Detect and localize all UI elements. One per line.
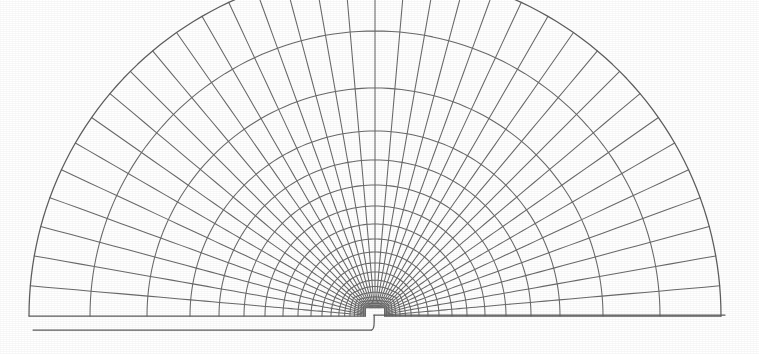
mesh-spoke <box>385 143 675 310</box>
mesh-spoke <box>383 71 619 307</box>
mesh-spoke <box>61 170 365 312</box>
mesh-spoke <box>385 226 710 313</box>
mesh-spoke <box>385 198 701 313</box>
mesh-spoke <box>385 118 659 310</box>
notch-step-edge <box>371 315 374 330</box>
mesh-spoke <box>153 51 368 308</box>
mesh-spoke <box>385 170 689 312</box>
mesh-spokes-group <box>30 0 719 315</box>
mesh-spoke <box>376 0 435 308</box>
mesh-spoke <box>34 256 365 314</box>
mesh-spoke <box>385 256 716 314</box>
mesh-spoke <box>50 198 366 313</box>
mesh-spoke <box>75 143 365 310</box>
mesh-spoke <box>378 0 493 308</box>
finite-element-mesh-svg <box>0 0 759 354</box>
mesh-spoke <box>382 51 597 308</box>
mesh-spoke <box>381 33 574 308</box>
mesh-spoke <box>380 16 548 307</box>
mesh-spoke <box>315 0 374 308</box>
mesh-spoke <box>202 16 370 307</box>
mesh-spoke <box>41 226 366 313</box>
mesh-spoke <box>177 33 370 308</box>
mesh-spoke <box>257 0 372 308</box>
mesh-figure <box>0 0 759 354</box>
mesh-spoke <box>130 71 366 307</box>
mesh-spoke <box>92 118 366 310</box>
